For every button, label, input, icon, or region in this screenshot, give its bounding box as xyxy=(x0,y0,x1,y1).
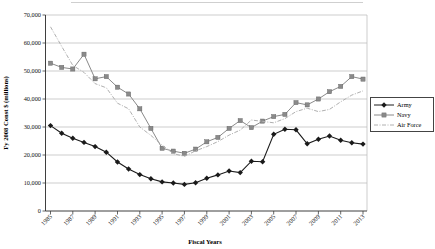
diamond-marker-icon xyxy=(137,172,142,177)
square-marker-icon xyxy=(361,77,365,81)
diamond-marker-icon xyxy=(159,179,164,184)
square-marker-icon xyxy=(283,112,287,116)
square-marker-icon xyxy=(82,52,86,56)
navy-line xyxy=(51,54,364,153)
diamond-marker-icon xyxy=(271,132,276,137)
legend-item-navy: Navy xyxy=(374,110,430,119)
air-force-line xyxy=(51,27,364,157)
x-tick-label: 1985 xyxy=(39,213,53,227)
x-tick-label: 2009 xyxy=(307,213,321,227)
square-marker-icon xyxy=(60,65,64,69)
diamond-marker-icon xyxy=(226,168,231,173)
diamond-marker-icon xyxy=(204,176,209,181)
diamond-marker-icon xyxy=(81,140,86,145)
y-tick-label: 30,000 xyxy=(24,123,41,130)
y-tick-label: 0 xyxy=(38,207,41,214)
square-marker-icon xyxy=(316,97,320,101)
x-tick-label: 2011 xyxy=(330,213,344,227)
square-marker-icon xyxy=(194,147,198,151)
diamond-marker-icon xyxy=(338,138,343,143)
legend: Army Navy Air Force xyxy=(370,97,434,132)
y-tick-label: 50,000 xyxy=(24,67,41,74)
diamond-marker-icon xyxy=(70,136,75,141)
diamond-marker-icon xyxy=(349,140,354,145)
diamond-marker-icon xyxy=(148,176,153,181)
square-marker-icon xyxy=(182,151,186,155)
square-marker-icon xyxy=(350,75,354,79)
y-tick-label: 40,000 xyxy=(24,95,41,102)
diamond-marker-icon xyxy=(374,101,394,109)
square-marker-icon xyxy=(272,115,276,119)
figure-top-border xyxy=(71,2,363,3)
diamond-marker-icon xyxy=(215,172,220,177)
x-tick-label: 1999 xyxy=(196,213,210,227)
square-marker-icon xyxy=(227,126,231,130)
legend-label-air-force: Air Force xyxy=(397,121,421,128)
legend-label-navy: Navy xyxy=(397,111,411,118)
y-tick-label: 20,000 xyxy=(24,151,41,158)
diamond-marker-icon xyxy=(126,166,131,171)
square-marker-icon xyxy=(205,140,209,144)
square-marker-icon xyxy=(374,111,394,119)
x-axis-title: Fiscal Years xyxy=(188,238,222,245)
dash-dot-line-icon xyxy=(374,121,394,129)
diamond-marker-icon xyxy=(260,159,265,164)
x-tick-label: 1987 xyxy=(62,213,76,227)
diamond-marker-icon xyxy=(171,180,176,185)
x-tick-label: 2013 xyxy=(352,213,366,227)
x-tick-label: 2007 xyxy=(285,213,299,227)
diamond-marker-icon xyxy=(92,144,97,149)
square-marker-icon xyxy=(216,135,220,139)
x-tick-label: 1993 xyxy=(129,213,143,227)
x-tick-label: 2003 xyxy=(240,213,254,227)
chart-figure: Fy 2008 Const $ (millions) Fiscal Years … xyxy=(0,0,435,249)
square-marker-icon xyxy=(115,85,119,89)
square-marker-icon xyxy=(104,75,108,79)
diamond-marker-icon xyxy=(360,141,365,146)
square-marker-icon xyxy=(138,107,142,111)
x-tick-label: 1989 xyxy=(84,213,98,227)
y-tick-label: 70,000 xyxy=(24,11,41,18)
y-tick-label: 10,000 xyxy=(24,179,41,186)
square-marker-icon xyxy=(339,84,343,88)
y-axis-title: Fy 2008 Const $ (millions) xyxy=(2,76,10,150)
x-tick-label: 2001 xyxy=(218,213,232,227)
square-marker-icon xyxy=(71,67,75,71)
square-marker-icon xyxy=(149,126,153,130)
square-marker-icon xyxy=(305,103,309,107)
x-tick-label: 1997 xyxy=(173,213,187,227)
axes: 010,00020,00030,00040,00050,00060,00070,… xyxy=(24,11,367,226)
square-marker-icon xyxy=(238,119,242,123)
square-marker-icon xyxy=(48,61,52,65)
square-marker-icon xyxy=(327,90,331,94)
legend-item-army: Army xyxy=(374,100,430,109)
square-marker-icon xyxy=(249,126,253,130)
square-marker-icon xyxy=(127,92,131,96)
diamond-marker-icon xyxy=(316,137,321,142)
y-tick-label: 60,000 xyxy=(24,39,41,46)
x-tick-label: 1995 xyxy=(151,213,165,227)
diamond-marker-icon xyxy=(182,182,187,187)
x-tick-label: 2005 xyxy=(263,213,277,227)
x-tick-label: 1991 xyxy=(106,213,120,227)
square-marker-icon xyxy=(93,77,97,81)
legend-item-air-force: Air Force xyxy=(374,120,430,129)
legend-label-army: Army xyxy=(397,101,412,108)
diamond-marker-icon xyxy=(327,133,332,138)
air-force-series xyxy=(51,27,364,157)
square-marker-icon xyxy=(294,101,298,105)
diamond-marker-icon xyxy=(193,180,198,185)
